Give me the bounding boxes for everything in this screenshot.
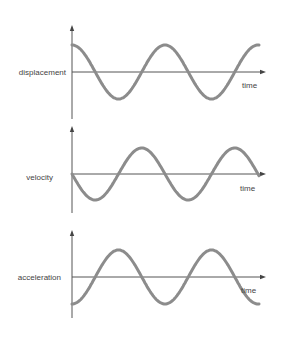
oscillation-diagram: displacement time velocity time accelera…: [0, 0, 282, 343]
x-axis-label: time: [241, 286, 257, 295]
y-axis-label: displacement: [19, 68, 67, 77]
y-axis-arrowhead-icon: [70, 126, 74, 132]
y-axis-arrowhead-icon: [70, 230, 74, 236]
y-axis-label: velocity: [26, 173, 53, 182]
shm-graphs: displacement time velocity time accelera…: [0, 0, 282, 343]
x-axis-arrowhead-icon: [260, 275, 266, 279]
x-axis-label: time: [242, 81, 258, 90]
panel-displacement: displacement time: [19, 25, 266, 119]
panel-velocity: velocity time: [26, 126, 266, 213]
x-axis-arrowhead-icon: [260, 172, 266, 176]
y-axis-label: acceleration: [18, 273, 61, 282]
x-axis-label: time: [240, 184, 256, 193]
y-axis-arrowhead-icon: [70, 25, 74, 31]
panel-acceleration: acceleration time: [18, 230, 266, 318]
x-axis-arrowhead-icon: [260, 70, 266, 74]
